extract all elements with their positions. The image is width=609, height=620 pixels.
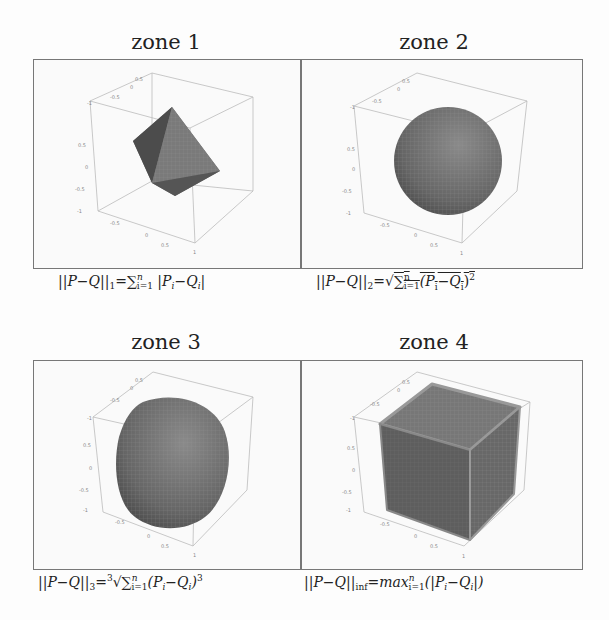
svg-text:-1: -1 xyxy=(77,208,82,214)
plot-zone4: 0.50-0.5-1 0.50-0.5-1 -0.500.51 xyxy=(302,362,580,567)
svg-text:0: 0 xyxy=(414,232,417,238)
plot-zone2: 0.50-0.5-1 0.50-0.5-1 -0.500.51 xyxy=(302,61,580,266)
svg-text:-0.5: -0.5 xyxy=(380,222,390,228)
svg-text:0: 0 xyxy=(414,533,417,539)
svg-text:0: 0 xyxy=(130,84,133,90)
svg-text:0.5: 0.5 xyxy=(430,242,438,248)
svg-text:-0.5: -0.5 xyxy=(370,401,380,407)
svg-text:-1: -1 xyxy=(346,210,351,216)
svg-text:-0.5: -0.5 xyxy=(342,489,352,495)
panel-title-zone2: zone 2 xyxy=(334,30,534,54)
svg-text:-1: -1 xyxy=(346,507,351,513)
svg-text:1: 1 xyxy=(193,249,196,255)
svg-text:0.5: 0.5 xyxy=(347,146,355,152)
svg-text:-0.5: -0.5 xyxy=(380,521,390,527)
superellipsoid-icon xyxy=(116,397,229,528)
panel-title-zone3: zone 3 xyxy=(66,330,266,354)
caption-zone3: ||P−Q||3=3√∑ni=1(Pi−Qi)3 xyxy=(38,573,203,592)
svg-text:-0.5: -0.5 xyxy=(79,487,89,493)
caption-zone4: ||P−Q||inf=maxni=1(|Pi−Qi|) xyxy=(304,573,484,592)
svg-text:0: 0 xyxy=(85,164,88,170)
svg-text:1: 1 xyxy=(193,552,196,558)
panel-title-zone4: zone 4 xyxy=(334,330,534,354)
svg-text:0: 0 xyxy=(145,232,148,238)
svg-text:0: 0 xyxy=(352,467,355,473)
svg-text:0.5: 0.5 xyxy=(161,242,169,248)
svg-text:-0.5: -0.5 xyxy=(115,519,125,525)
svg-text:-0.5: -0.5 xyxy=(75,186,85,192)
svg-text:0: 0 xyxy=(352,166,355,172)
caption-zone1: ||P−Q||1=∑ni=1 |Pi−Qi| xyxy=(58,272,205,291)
svg-text:0: 0 xyxy=(89,465,92,471)
sphere-icon xyxy=(394,107,502,215)
svg-text:-0.5: -0.5 xyxy=(342,188,352,194)
svg-text:0.5: 0.5 xyxy=(430,543,438,549)
svg-text:0.5: 0.5 xyxy=(83,442,91,448)
svg-text:-0.5: -0.5 xyxy=(110,397,120,403)
svg-text:0.5: 0.5 xyxy=(161,543,169,549)
svg-text:0: 0 xyxy=(397,86,400,92)
svg-text:1: 1 xyxy=(460,250,463,256)
svg-text:-1: -1 xyxy=(87,415,92,421)
svg-text:-0.5: -0.5 xyxy=(372,98,382,104)
svg-text:0.5: 0.5 xyxy=(347,445,355,451)
svg-text:0.5: 0.5 xyxy=(402,379,410,385)
svg-text:0.5: 0.5 xyxy=(135,377,143,383)
cube-icon xyxy=(380,384,520,540)
svg-text:0.5: 0.5 xyxy=(135,76,143,82)
svg-text:-1: -1 xyxy=(350,415,355,421)
panel-title-zone1: zone 1 xyxy=(66,30,266,54)
svg-text:-1: -1 xyxy=(87,100,92,106)
svg-text:-1: -1 xyxy=(350,104,355,110)
svg-text:1: 1 xyxy=(462,553,465,559)
svg-text:0: 0 xyxy=(147,533,150,539)
plot-zone1: 0.50-0.5-1 0.50-0.5-1 -0.500.51 xyxy=(35,61,299,266)
svg-text:0: 0 xyxy=(130,385,133,391)
svg-text:0.5: 0.5 xyxy=(78,142,86,148)
svg-text:-1: -1 xyxy=(83,507,88,513)
svg-text:-0.5: -0.5 xyxy=(110,220,120,226)
svg-text:-0.5: -0.5 xyxy=(110,94,120,100)
svg-text:0: 0 xyxy=(397,387,400,393)
octahedron-icon xyxy=(133,107,220,196)
svg-text:0.5: 0.5 xyxy=(402,78,410,84)
caption-zone2: ||P−Q||2=√∑ni=1(Pi−Qi)2 xyxy=(316,272,475,291)
plot-zone3: 0.50-0.5-1 0.50-0.5-1 -0.500.51 xyxy=(35,362,299,567)
